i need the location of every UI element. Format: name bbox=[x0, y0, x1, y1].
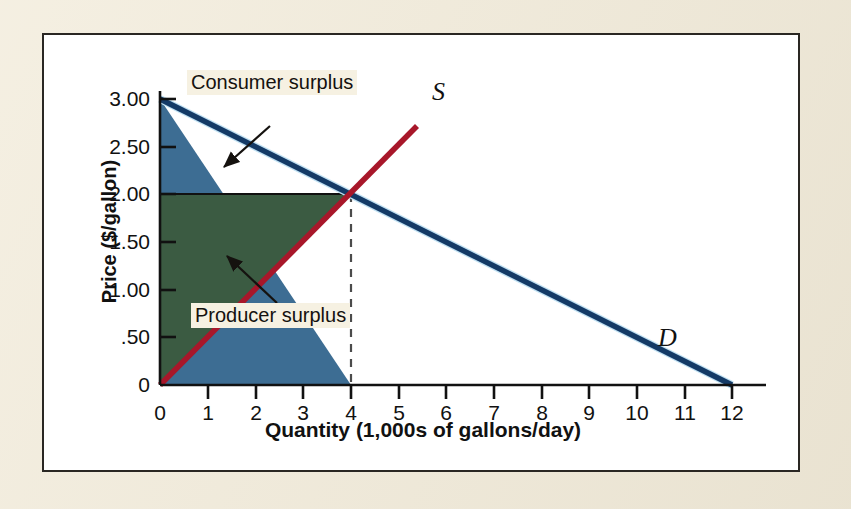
figure-root: 3.00 2.50 2.00 1.50 1.00 .50 0 0 1 2 3 4… bbox=[0, 0, 851, 509]
y-tick-label-3.00: 3.00 bbox=[58, 87, 150, 111]
producer-surplus-label: Producer surplus bbox=[191, 303, 350, 328]
x-axis-ticks bbox=[208, 385, 732, 399]
x-axis-title: Quantity (1,000s of gallons/day) bbox=[44, 418, 800, 442]
y-axis-title: Price ($/gallon) bbox=[98, 117, 121, 347]
y-tick-label-0: 0 bbox=[58, 373, 150, 397]
consumer-surplus-label: Consumer surplus bbox=[187, 70, 357, 95]
chart-panel: 3.00 2.50 2.00 1.50 1.00 .50 0 0 1 2 3 4… bbox=[42, 33, 800, 472]
supply-curve-label: S bbox=[432, 77, 445, 107]
demand-curve-label: D bbox=[658, 323, 677, 353]
